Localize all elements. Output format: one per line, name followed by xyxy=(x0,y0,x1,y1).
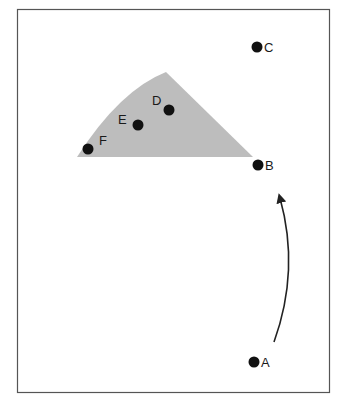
point-c-dot xyxy=(252,42,263,53)
point-b-dot xyxy=(253,160,264,171)
diagram-canvas: C D E F B A xyxy=(0,0,348,416)
point-d-dot xyxy=(164,105,175,116)
point-d-label: D xyxy=(152,93,161,108)
point-f-label: F xyxy=(99,133,107,148)
point-a-dot xyxy=(249,357,260,368)
point-c-label: C xyxy=(264,40,273,55)
point-a-label: A xyxy=(261,355,270,370)
point-f-dot xyxy=(83,144,94,155)
point-e-dot xyxy=(133,120,144,131)
frame-border xyxy=(18,10,330,393)
point-e-label: E xyxy=(118,112,127,127)
point-c: C xyxy=(252,40,274,55)
point-b-label: B xyxy=(265,158,274,173)
curved-arrow-a-to-b xyxy=(274,198,289,342)
point-a: A xyxy=(249,355,271,370)
point-b: B xyxy=(253,158,274,173)
